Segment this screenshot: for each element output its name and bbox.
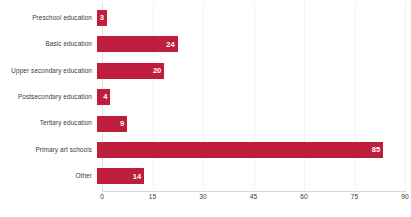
bar-track: 4: [97, 87, 411, 107]
bar-rows: Preschool education3Basic education24Upp…: [0, 6, 411, 191]
x-tick-label: 0: [100, 194, 104, 201]
bar-row: Postsecondary education4: [0, 87, 411, 107]
bar-track: 9: [97, 114, 411, 134]
x-tick-label: 60: [300, 194, 307, 201]
bar-track: 20: [97, 61, 411, 81]
bar-value-label: 9: [120, 120, 124, 128]
bar-track: 85: [97, 140, 411, 160]
bar-value-label: 85: [372, 146, 380, 154]
bar-value-label: 3: [100, 14, 104, 22]
bar[interactable]: 3: [97, 10, 107, 26]
bar-row: Basic education24: [0, 34, 411, 54]
category-label: Basic education: [0, 41, 97, 47]
bar-row: Other14: [0, 166, 411, 186]
x-axis-tick-labels: 0153045607590: [0, 194, 411, 208]
x-tick-label: 45: [250, 194, 257, 201]
x-tick-label: 30: [199, 194, 206, 201]
bar[interactable]: 85: [97, 142, 383, 158]
bar[interactable]: 24: [97, 36, 178, 52]
bar-row: Upper secondary education20: [0, 61, 411, 81]
bar[interactable]: 20: [97, 63, 164, 79]
bar[interactable]: 4: [97, 89, 110, 105]
category-label: Primary art schools: [0, 147, 97, 153]
category-label: Preschool education: [0, 15, 97, 21]
x-tick-label: 15: [149, 194, 156, 201]
category-label: Other: [0, 173, 97, 179]
bar-track: 3: [97, 8, 411, 28]
bar-row: Primary art schools85: [0, 140, 411, 160]
bar-chart: Preschool education3Basic education24Upp…: [0, 0, 411, 217]
bar-value-label: 24: [166, 41, 174, 49]
bar-track: 14: [97, 166, 411, 186]
bar-row: Tertiary education9: [0, 114, 411, 134]
bar[interactable]: 14: [97, 168, 144, 184]
category-label: Upper secondary education: [0, 68, 97, 74]
bar-row: Preschool education3: [0, 8, 411, 28]
bar-value-label: 4: [103, 93, 107, 101]
x-tick-label: 90: [401, 194, 408, 201]
category-label: Postsecondary education: [0, 94, 97, 100]
bar[interactable]: 9: [97, 116, 127, 132]
bar-value-label: 20: [153, 67, 161, 75]
bar-value-label: 14: [133, 173, 141, 181]
bar-track: 24: [97, 34, 411, 54]
x-axis-line: [102, 191, 406, 192]
category-label: Tertiary education: [0, 120, 97, 126]
x-tick-label: 75: [351, 194, 358, 201]
